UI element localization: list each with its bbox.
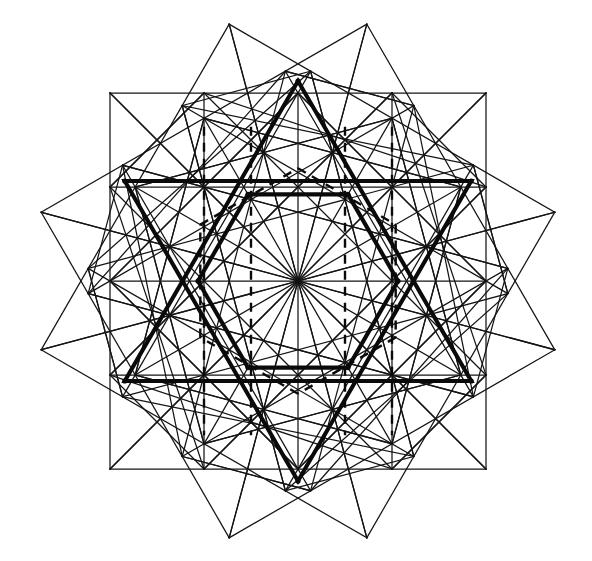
lattice-node <box>295 478 300 483</box>
lattice-node <box>345 192 350 197</box>
lattice-node <box>245 192 250 197</box>
lattice-node <box>122 178 127 183</box>
lattice-node <box>195 278 200 283</box>
lattice-node <box>469 178 474 183</box>
lattice-node <box>295 78 300 83</box>
lattice-layer <box>41 24 555 538</box>
lattice-node <box>395 278 400 283</box>
figure-canvas <box>0 0 592 561</box>
geometric-line-figure <box>0 0 592 561</box>
lattice-node <box>345 365 350 370</box>
lattice-node <box>122 378 127 383</box>
lattice-node <box>469 378 474 383</box>
lattice-node <box>245 365 250 370</box>
